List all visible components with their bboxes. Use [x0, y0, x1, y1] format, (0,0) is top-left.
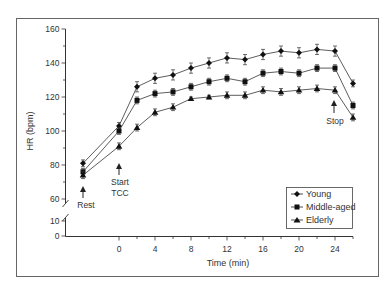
start-label-line2: TCC — [111, 188, 128, 198]
square-marker-icon — [225, 76, 230, 81]
x-tick-label: 24 — [330, 244, 340, 254]
y-tick-label: 140 — [45, 58, 59, 68]
legend-label: Middle-aged — [306, 202, 356, 212]
y-tick-label: 0 — [55, 231, 60, 241]
square-marker-icon — [315, 66, 320, 71]
square-marker-icon — [333, 66, 338, 71]
square-marker-icon — [243, 79, 248, 84]
x-tick-label: 4 — [153, 244, 158, 254]
rest-label: Rest — [77, 200, 95, 210]
figure-frame — [17, 19, 379, 277]
start-label-line1: Start — [111, 177, 130, 187]
square-marker-icon — [279, 69, 284, 74]
square-marker-icon — [207, 79, 212, 84]
x-tick-label: 12 — [222, 244, 232, 254]
y-tick-label: 160 — [45, 24, 59, 34]
hr-line-chart: 0106080100120140160 04812162024 HR (bpm)… — [0, 0, 392, 293]
square-marker-icon — [135, 98, 140, 103]
square-marker-icon — [351, 103, 356, 108]
x-tick-label: 16 — [258, 244, 268, 254]
x-tick-label: 8 — [189, 244, 194, 254]
y-axis-title: HR (bpm) — [25, 111, 35, 150]
legend-label: Young — [306, 189, 331, 199]
square-marker-icon — [189, 84, 194, 89]
square-marker-icon — [295, 205, 300, 210]
y-tick-label: 120 — [45, 92, 59, 102]
y-tick-label: 80 — [50, 160, 60, 170]
x-tick-label: 20 — [294, 244, 304, 254]
square-marker-icon — [297, 71, 302, 76]
square-marker-icon — [117, 129, 122, 134]
square-marker-icon — [171, 89, 176, 94]
legend-label: Elderly — [306, 215, 334, 225]
legend: Young Middle-aged Elderly — [287, 188, 356, 229]
stop-label: Stop — [326, 116, 344, 126]
square-marker-icon — [261, 71, 266, 76]
x-axis-title: Time (min) — [207, 258, 250, 268]
y-tick-label: 10 — [50, 216, 60, 226]
x-tick-label: 0 — [117, 244, 122, 254]
y-tick-label: 60 — [50, 194, 60, 204]
y-tick-label: 100 — [45, 126, 59, 136]
square-marker-icon — [153, 91, 158, 96]
